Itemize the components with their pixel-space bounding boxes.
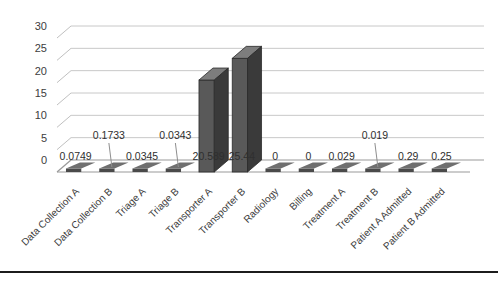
data-label-8: 0 — [305, 150, 311, 162]
data-label-3: 0.0345 — [126, 150, 158, 162]
bar-group-9 — [332, 163, 361, 173]
bar-group-2 — [99, 163, 128, 173]
data-label-6: 25.44 — [229, 150, 255, 162]
bar-group-12 — [432, 163, 461, 173]
bar-group-4 — [166, 163, 195, 173]
data-label-11: 0.29 — [398, 150, 419, 162]
bar-top-face — [66, 163, 95, 169]
x-axis-label-7: Radiology — [241, 186, 280, 225]
gridline-depth-5 — [57, 138, 71, 150]
bar-top-face — [432, 163, 461, 169]
bar-chart: 0510152025300.0749Data Collection A0.173… — [0, 0, 498, 286]
y-axis-tick-5: 5 — [41, 132, 47, 144]
x-axis-label-2: Data Collection B — [52, 185, 115, 248]
bar-group-8 — [299, 163, 328, 173]
data-label-7: 0 — [272, 150, 278, 162]
y-axis-tick-30: 30 — [35, 20, 47, 32]
bar-group-11 — [398, 163, 427, 173]
y-axis-tick-10: 10 — [35, 109, 47, 121]
x-axis-label-3: Triage A — [114, 185, 148, 219]
bar-front-face — [66, 169, 81, 173]
gridline-depth-10 — [57, 115, 71, 127]
bar-front-face — [299, 169, 314, 173]
data-label-10: 0.019 — [362, 129, 388, 141]
bar-top-face — [166, 163, 195, 169]
data-label-5: 20.589 — [193, 150, 225, 162]
x-axis-label-8: Billing — [287, 186, 314, 213]
bar-top-face — [299, 163, 328, 169]
chart-container: 0510152025300.0749Data Collection A0.173… — [0, 0, 498, 286]
gridline-depth-15 — [57, 93, 71, 105]
bar-front-face — [432, 169, 447, 173]
bottom-divider — [0, 271, 498, 273]
bar-front-face — [398, 169, 413, 173]
bar-top-face — [132, 163, 161, 169]
gridline-depth-20 — [57, 71, 71, 83]
bar-top-face — [332, 163, 361, 169]
bar-top-face — [265, 163, 294, 169]
gridline-depth-30 — [57, 26, 71, 38]
y-axis-tick-20: 20 — [35, 65, 47, 77]
x-axis-label-1: Data Collection A — [19, 185, 81, 247]
data-label-12: 0.25 — [431, 150, 452, 162]
bar-front-face — [99, 169, 114, 173]
bar-front-face — [132, 169, 147, 173]
data-label-leader-2 — [109, 143, 112, 167]
data-label-leader-10 — [375, 143, 378, 167]
bar-top-face — [398, 163, 427, 169]
bar-front-face — [332, 169, 347, 173]
data-label-1: 0.0749 — [60, 150, 92, 162]
data-label-leader-4 — [175, 143, 178, 167]
bar-top-face — [99, 163, 128, 169]
y-axis-tick-25: 25 — [35, 42, 47, 54]
data-label-2: 0.1733 — [93, 129, 125, 141]
data-label-4: 0.0343 — [159, 129, 191, 141]
bar-group-1 — [66, 163, 95, 173]
x-axis-label-11: Patient A Admitted — [348, 186, 413, 251]
data-label-9: 0.029 — [328, 150, 354, 162]
bar-front-face — [265, 169, 280, 173]
bar-group-7 — [265, 163, 294, 173]
bar-group-3 — [132, 163, 161, 173]
x-axis-label-12: Patient B Admitted — [381, 186, 447, 252]
y-axis-tick-0: 0 — [41, 154, 47, 166]
bar-front-face — [166, 169, 181, 173]
gridline-depth-25 — [57, 48, 71, 60]
bar-front-face — [365, 169, 380, 173]
bar-group-10 — [365, 163, 394, 173]
bar-top-face — [365, 163, 394, 169]
y-axis-tick-15: 15 — [35, 87, 47, 99]
